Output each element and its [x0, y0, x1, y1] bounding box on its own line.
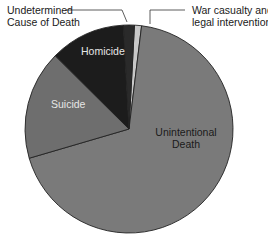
label-suicide: Suicide [51, 98, 85, 110]
label-unintentional: Unintentional Death [146, 126, 226, 150]
label-war-casualty: War casualty and legal intervention [192, 4, 268, 28]
leader-line-war [150, 10, 185, 24]
label-unintentional-line2: Death [146, 138, 226, 150]
label-homicide: Homicide [81, 45, 125, 57]
label-undetermined: Undetermined Cause of Death [7, 4, 80, 28]
pie-chart [0, 0, 268, 238]
label-war-line2: legal intervention [192, 16, 268, 28]
label-war-line1: War casualty and [192, 4, 268, 16]
label-undetermined-line2: Cause of Death [7, 16, 80, 28]
label-unintentional-line1: Unintentional [146, 126, 226, 138]
label-undetermined-line1: Undetermined [7, 4, 80, 16]
leader-lines [66, 10, 185, 24]
